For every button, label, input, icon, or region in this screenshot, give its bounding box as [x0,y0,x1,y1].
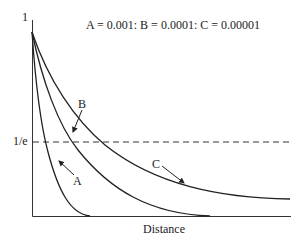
curve-b-label: B [78,97,86,112]
y-tick-1: 1 [22,10,28,25]
curve-c [32,32,290,199]
y-tick-inv-e: 1/e [13,134,28,149]
chart-title: A = 0.001: B = 0.0001: C = 0.00001 [86,18,260,33]
curve-b [32,32,210,216]
curve-c-label: C [152,157,160,172]
decay-chart [0,0,303,242]
arrow-a [59,161,74,175]
x-axis-label: Distance [143,222,185,237]
arrow-c [162,166,184,183]
curve-a-label: A [73,174,82,189]
